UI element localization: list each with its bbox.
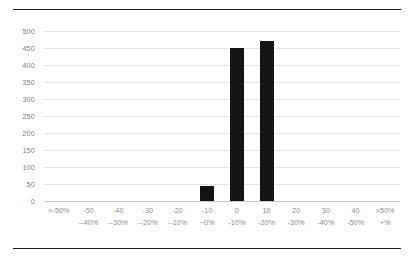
x-axis-tick-label: -40--30% — [103, 205, 133, 228]
x-axis-tick-label-line2: -40% — [311, 217, 341, 229]
x-axis-tick-label-line2: -20% — [252, 217, 282, 229]
bar[interactable] — [200, 186, 214, 201]
chart-page: 500450400350300250200150100500 >-50% -50… — [0, 0, 413, 259]
x-axis-tick-label-line2: ~0% — [192, 217, 222, 229]
bar-slot[interactable] — [370, 31, 400, 201]
bottom-divider-rule — [13, 248, 401, 249]
y-axis-tick-label: 50 — [27, 180, 35, 189]
x-axis-tick-label-line2: -10% — [222, 217, 252, 229]
x-axis-tick-label-line1: -50 — [83, 206, 94, 215]
bar-slot[interactable] — [44, 31, 74, 201]
x-axis-tick-label-line2: -50% — [341, 217, 371, 229]
x-axis-labels: >-50% -50--40%-40--30%-30--20%-20--10%-1… — [44, 205, 400, 228]
y-axis-tick-label: 0 — [31, 197, 35, 206]
x-axis-tick-label-line1: -10 — [202, 206, 213, 215]
y-axis-tick-label: 500 — [22, 27, 35, 36]
gridline — [44, 201, 400, 202]
x-axis-tick-label: 0-10% — [222, 205, 252, 228]
x-axis-tick-label: -20--10% — [163, 205, 193, 228]
x-axis-tick-label-line1: 40 — [351, 206, 359, 215]
x-axis-tick-label-line1: -40 — [113, 206, 124, 215]
bar-slot[interactable] — [252, 31, 282, 201]
bar-slot[interactable] — [103, 31, 133, 201]
x-axis-tick-label-line1: >-50% — [48, 206, 69, 215]
x-axis-tick-label-line2: --30% — [103, 217, 133, 229]
x-axis-tick-label: -50--40% — [74, 205, 104, 228]
bar[interactable] — [260, 41, 274, 201]
x-axis-tick-label-line2: +% — [370, 217, 400, 229]
bar-slot[interactable] — [133, 31, 163, 201]
top-divider-rule — [13, 9, 401, 10]
y-axis-tick-label: 200 — [22, 129, 35, 138]
x-axis-tick-label-line2 — [44, 217, 74, 229]
x-axis-tick-label-line2: --40% — [74, 217, 104, 229]
y-axis-tick-label: 350 — [22, 78, 35, 87]
bar-slot[interactable] — [341, 31, 371, 201]
bar-chart: 500450400350300250200150100500 >-50% -50… — [0, 22, 413, 244]
y-axis-tick-label: 450 — [22, 44, 35, 53]
x-axis-tick-label: 40-50% — [341, 205, 371, 228]
bar-slot[interactable] — [281, 31, 311, 201]
bar-series — [44, 31, 400, 201]
x-axis-tick-label-line1: 0 — [235, 206, 239, 215]
x-axis-tick-label: >-50% — [44, 205, 74, 228]
bar-slot[interactable] — [311, 31, 341, 201]
x-axis-tick-label-line2: --10% — [163, 217, 193, 229]
x-axis-tick-label-line2: -30% — [281, 217, 311, 229]
y-axis-tick-label: 250 — [22, 112, 35, 121]
y-axis-tick-label: 300 — [22, 95, 35, 104]
x-axis-tick-label-line1: 20 — [292, 206, 300, 215]
bar-slot[interactable] — [163, 31, 193, 201]
x-axis-tick-label: -30--20% — [133, 205, 163, 228]
x-axis-tick-label: >50%+% — [370, 205, 400, 228]
x-axis-tick-label: 30-40% — [311, 205, 341, 228]
bar[interactable] — [230, 48, 244, 201]
y-axis-tick-label: 100 — [22, 163, 35, 172]
x-axis-tick-label: 10-20% — [252, 205, 282, 228]
bar-slot[interactable] — [222, 31, 252, 201]
bar-slot[interactable] — [192, 31, 222, 201]
plot-area — [44, 31, 400, 201]
x-axis-tick-label-line2: --20% — [133, 217, 163, 229]
bar-slot[interactable] — [74, 31, 104, 201]
x-axis-tick-label-line1: 30 — [322, 206, 330, 215]
y-axis-tick-label: 150 — [22, 146, 35, 155]
x-axis-tick-label: 20-30% — [281, 205, 311, 228]
y-axis-tick-label: 400 — [22, 61, 35, 70]
y-axis-labels: 500450400350300250200150100500 — [0, 31, 40, 201]
x-axis-tick-label-line1: -20 — [172, 206, 183, 215]
x-axis-tick-label-line1: 10 — [262, 206, 270, 215]
x-axis-tick-label-line1: -30 — [143, 206, 154, 215]
x-axis-tick-label: -10~0% — [192, 205, 222, 228]
x-axis-tick-label-line1: >50% — [376, 206, 395, 215]
